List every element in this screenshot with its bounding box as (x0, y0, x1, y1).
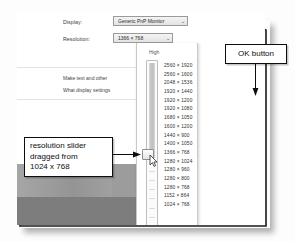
resolution-list-item[interactable]: 1280 × 1024 (164, 158, 224, 167)
resolution-list-item[interactable]: 1024 × 768 (164, 201, 224, 210)
resolution-list-item[interactable]: 1680 × 1050 (164, 114, 224, 123)
resolution-slider[interactable] (146, 60, 158, 225)
arrow-right-icon (133, 150, 141, 159)
mouse-cursor-icon (149, 155, 158, 167)
slider-callout: resolution slider dragged from 1024 x 76… (24, 137, 113, 177)
display-label: Display: (63, 19, 82, 25)
resolution-list-item[interactable]: 2048 × 1536 (164, 79, 224, 88)
resolution-list-item[interactable]: 1920 × 1080 (164, 105, 224, 114)
resolution-list-item[interactable]: 1366 × 768 (164, 149, 224, 158)
resolution-list-item[interactable]: 1280 × 768 (164, 184, 224, 193)
resolution-list-item[interactable]: 1280 × 800 (164, 175, 224, 184)
slider-callout-line-3: 1024 x 768 (30, 162, 107, 173)
make-text-larger-link[interactable]: Make text and other (63, 75, 107, 81)
resolution-list-item[interactable]: 1920 × 1200 (164, 97, 224, 106)
resolution-label: Resolution: (63, 36, 90, 42)
resolution-list-item[interactable]: 1400 × 1050 (164, 140, 224, 149)
resolution-list-item[interactable]: 1152 × 864 (164, 192, 224, 201)
resolution-list-item[interactable]: 1600 × 1200 (164, 123, 224, 132)
chevron-down-icon: ⌄ (178, 18, 187, 24)
ok-callout: OK button (225, 44, 287, 64)
resolution-list-item[interactable]: 2560 × 1920 (164, 62, 224, 71)
slider-callout-line-2: dragged from (30, 152, 107, 163)
arrow-down-icon (251, 88, 260, 96)
what-display-settings-link[interactable]: What display settings (63, 87, 110, 93)
chevron-down-icon: ⌄ (163, 35, 172, 41)
resolution-list-item[interactable]: 2560 × 1600 (164, 71, 224, 80)
resolution-list-item[interactable]: 1920 × 1440 (164, 88, 224, 97)
screenshot-stage: Display: Generic PnP Monitor ⌄ Resolutio… (0, 0, 295, 242)
resolution-list-item[interactable]: 1440 × 900 (164, 132, 224, 141)
display-dropdown[interactable]: Generic PnP Monitor ⌄ (113, 16, 188, 26)
resolution-list-item[interactable]: 1280 × 960 (164, 166, 224, 175)
resolution-flyout[interactable]: High Low 2560 × 19202560 × 16002048 × 15… (136, 43, 198, 225)
resolution-dropdown-value: 1366 × 768 (118, 35, 163, 41)
slider-high-label: High (149, 49, 159, 55)
resolution-list[interactable]: 2560 × 19202560 × 16002048 × 15361920 × … (164, 62, 224, 210)
display-dropdown-value: Generic PnP Monitor (118, 18, 178, 24)
slider-callout-line-1: resolution slider (30, 141, 107, 152)
slider-fill (149, 63, 155, 158)
resolution-dropdown[interactable]: 1366 × 768 ⌄ (113, 33, 173, 43)
